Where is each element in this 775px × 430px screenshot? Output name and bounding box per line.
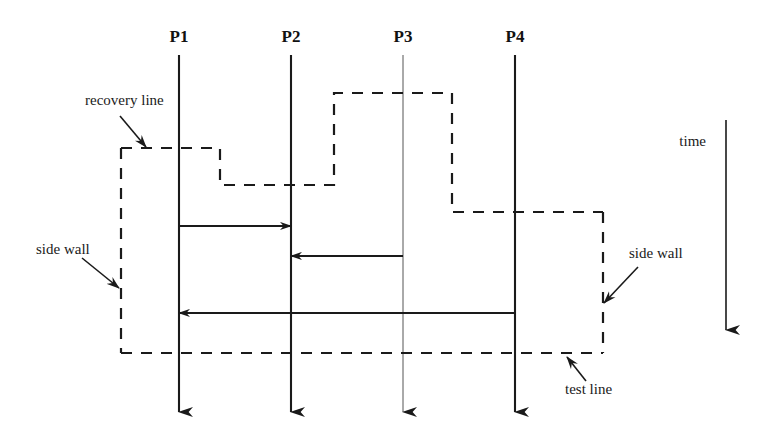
test-line-annotation-arrow [567,357,586,381]
side-wall-right-annotation-label: side wall [629,245,683,261]
side-wall-left-annotation-arrow [82,258,119,288]
recovery-line-annotation-label: recovery line [85,92,164,108]
message-arrows [179,226,515,313]
process-label-p4: P4 [506,27,525,46]
test-line-annotation-label: test line [565,381,612,397]
time-axis: time [679,120,726,330]
annotations: recovery line side wall side wall test l… [36,92,683,397]
recovery-line [121,93,603,212]
diagram-canvas: P1 P2 P3 P4 time recovery line side wall [0,0,775,430]
process-label-p3: P3 [394,27,413,46]
process-label-p1: P1 [170,27,189,46]
side-wall-left-annotation-label: side wall [36,241,90,257]
recovery-line-annotation-arrow [120,116,146,147]
side-wall-right-annotation-arrow [604,267,638,303]
process-lifelines [179,55,515,412]
recovery-line-diagram: P1 P2 P3 P4 time recovery line side wall [0,0,775,430]
time-axis-label: time [679,133,706,149]
process-labels: P1 P2 P3 P4 [170,27,525,46]
process-label-p2: P2 [282,27,301,46]
